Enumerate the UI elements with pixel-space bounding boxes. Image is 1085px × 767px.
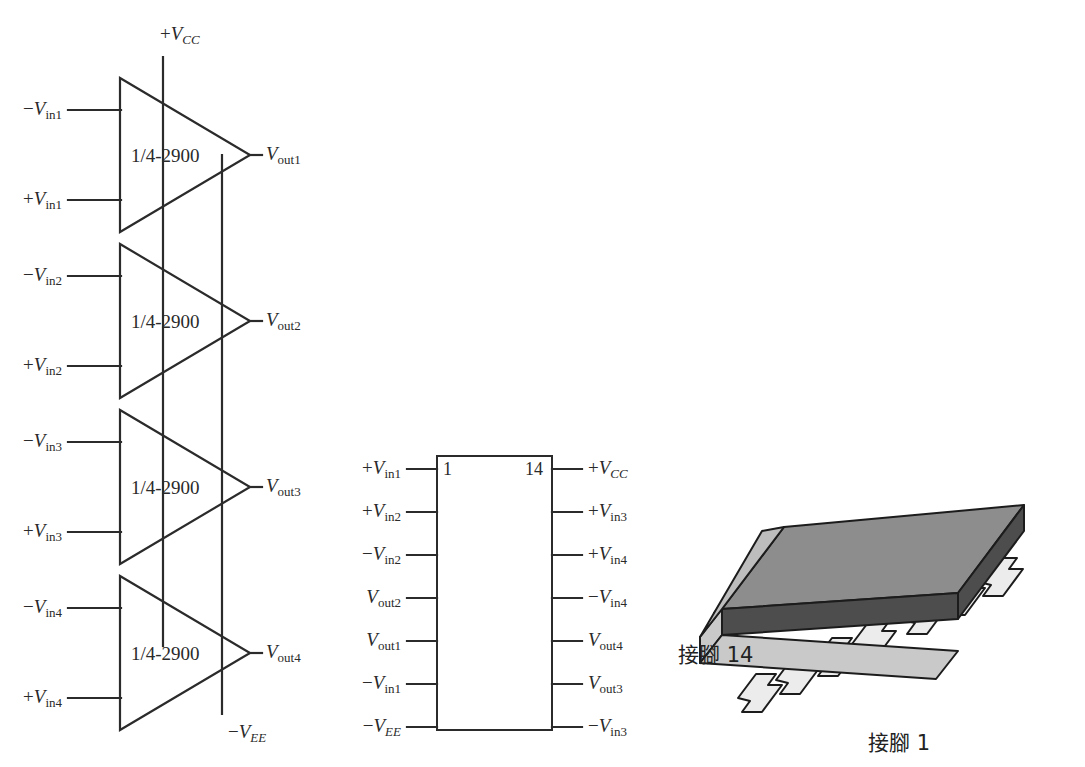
dip-label-left-5: Vout1 xyxy=(366,630,401,652)
dip-label-left-6: −Vin1 xyxy=(362,673,401,695)
label-amp4-output: Vout4 xyxy=(266,642,301,664)
package-label-pin-1: 接腳 1 xyxy=(868,726,930,756)
label-amp2-noninverting-input: +Vin2 xyxy=(23,355,62,377)
ic-package-illustration xyxy=(692,505,1024,712)
label-vcc-supply: +VCC xyxy=(160,24,200,46)
dip-label-left-7: −VEE xyxy=(363,716,401,738)
label-amp1-noninverting-input: +Vin1 xyxy=(23,189,62,211)
label-amp2-part-number: 1/4-2900 xyxy=(131,312,200,331)
dip-label-right-3: +Vin4 xyxy=(588,544,627,566)
label-amp3-output: Vout3 xyxy=(266,476,301,498)
label-amp4-part-number: 1/4-2900 xyxy=(131,644,200,663)
label-amp2-inverting-input: −Vin2 xyxy=(23,265,62,287)
dip-label-right-5: Vout4 xyxy=(588,630,623,652)
dip-body-outline xyxy=(437,456,552,730)
label-amp3-inverting-input: −Vin3 xyxy=(23,431,62,453)
dip-label-left-1: +Vin1 xyxy=(362,458,401,480)
figure-canvas: +VCC −VEE −Vin1 +Vin1 Vout1 1/4-2900 −Vi… xyxy=(0,0,1085,767)
label-amp4-noninverting-input: +Vin4 xyxy=(23,687,62,709)
dip-label-left-4: Vout2 xyxy=(366,587,401,609)
label-amp1-output: Vout1 xyxy=(266,144,301,166)
dip-label-right-6: Vout3 xyxy=(588,673,623,695)
label-amp3-part-number: 1/4-2900 xyxy=(131,478,200,497)
label-amp4-inverting-input: −Vin4 xyxy=(23,597,62,619)
label-amp1-part-number: 1/4-2900 xyxy=(131,146,200,165)
dip-label-left-2: +Vin2 xyxy=(362,501,401,523)
label-amp1-inverting-input: −Vin1 xyxy=(23,99,62,121)
label-amp2-output: Vout2 xyxy=(266,310,301,332)
package-label-pin-14: 接腳 14 xyxy=(678,638,753,668)
dip-pin-number-1: 1 xyxy=(443,459,452,480)
label-vee-supply: −VEE xyxy=(228,722,266,744)
dip-pin-number-14: 14 xyxy=(525,459,543,480)
dip-label-right-2: +Vin3 xyxy=(588,501,627,523)
label-amp3-noninverting-input: +Vin3 xyxy=(23,521,62,543)
dip-label-right-4: −Vin4 xyxy=(588,587,627,609)
dip-label-right-7: −Vin3 xyxy=(588,716,627,738)
dip-label-right-1: +VCC xyxy=(588,458,628,480)
dip-label-left-3: −Vin2 xyxy=(362,544,401,566)
